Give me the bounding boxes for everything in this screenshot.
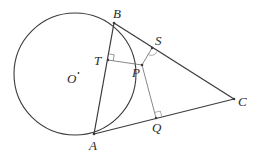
label-t: T (94, 53, 102, 68)
point-s (151, 47, 153, 49)
label-o: O (67, 71, 77, 86)
center-dot-o (78, 72, 80, 74)
point-q (155, 117, 157, 119)
point-p (141, 64, 144, 67)
segment-pq (142, 65, 156, 118)
geometry-figure: B A C T P S Q O (0, 0, 261, 153)
chord-ab (94, 23, 114, 134)
segment-ps (142, 48, 152, 65)
point-t (107, 59, 109, 61)
label-b: B (113, 6, 121, 21)
label-a: A (88, 138, 97, 153)
label-p: P (131, 65, 140, 80)
label-q: Q (152, 120, 162, 135)
label-s: S (155, 33, 162, 48)
tangent-bc (114, 23, 234, 99)
tangent-ac (94, 99, 234, 134)
right-angle-mark-t (109, 54, 114, 61)
point-a (93, 133, 96, 136)
point-b (113, 22, 116, 25)
label-c: C (238, 94, 247, 109)
point-c (233, 98, 236, 101)
